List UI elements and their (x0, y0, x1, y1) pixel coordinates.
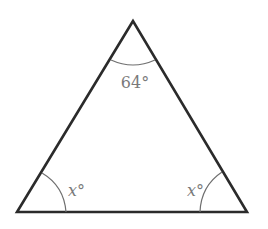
triangle-diagram: 64° x° x° (0, 0, 268, 229)
bottom-right-angle-label: x° (187, 181, 204, 200)
bottom-left-angle-arc (42, 173, 66, 212)
apex-angle-arc (111, 60, 155, 65)
triangle-canvas: 64° x° x° (0, 0, 268, 229)
bottom-left-angle-label: x° (68, 181, 85, 200)
triangle-outline (17, 21, 247, 212)
apex-angle-label: 64° (121, 73, 149, 92)
